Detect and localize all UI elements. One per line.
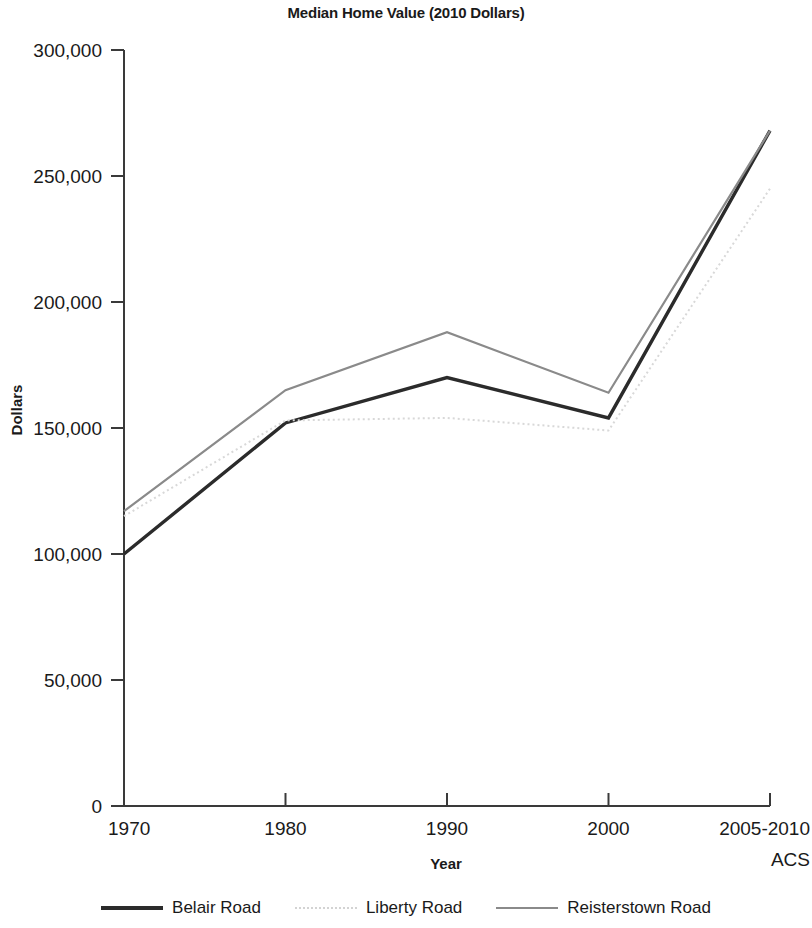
data-series-lines (124, 131, 770, 554)
axis-lines (124, 50, 770, 806)
x-axis-tick-marks (124, 793, 770, 806)
legend-line-reisterstown-icon (496, 902, 558, 914)
x-tick-label: 1970 (108, 818, 150, 839)
chart-figure: Median Home Value (2010 Dollars) 050,000… (0, 0, 812, 928)
legend-label-reisterstown-road: Reisterstown Road (567, 898, 711, 918)
y-tick-label: 200,000 (33, 292, 102, 313)
legend-label-belair-road: Belair Road (172, 898, 261, 918)
x-tick-label-secondline: ACS (771, 849, 810, 870)
y-tick-label: 300,000 (33, 40, 102, 61)
x-axis-title: Year (430, 855, 462, 872)
y-axis-tick-marks (111, 50, 124, 806)
y-tick-label: 100,000 (33, 544, 102, 565)
y-tick-label: 50,000 (44, 670, 102, 691)
x-tick-label: 2000 (587, 818, 629, 839)
legend-line-liberty-icon (295, 902, 357, 914)
chart-legend: Belair Road Liberty Road Reisterstown Ro… (0, 898, 812, 918)
series-line-belair-road (124, 131, 770, 554)
y-axis-tick-labels: 050,000100,000150,000200,000250,000300,0… (33, 40, 102, 817)
y-tick-label: 250,000 (33, 166, 102, 187)
legend-label-liberty-road: Liberty Road (366, 898, 462, 918)
legend-item-reisterstown-road[interactable]: Reisterstown Road (496, 898, 711, 918)
y-axis-title: Dollars (8, 385, 25, 436)
x-tick-label: 2005-2010 (719, 818, 810, 839)
series-line-liberty-road (124, 189, 770, 517)
legend-line-belair-icon (101, 902, 163, 914)
series-line-reisterstown-road (124, 131, 770, 512)
x-tick-label: 1990 (426, 818, 468, 839)
y-tick-label: 150,000 (33, 418, 102, 439)
legend-item-liberty-road[interactable]: Liberty Road (295, 898, 462, 918)
legend-item-belair-road[interactable]: Belair Road (101, 898, 261, 918)
line-chart-plot: 050,000100,000150,000200,000250,000300,0… (0, 0, 812, 890)
x-tick-label: 1980 (264, 818, 306, 839)
y-tick-label: 0 (91, 796, 102, 817)
